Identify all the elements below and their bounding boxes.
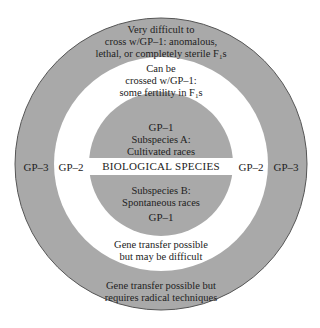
gp1-bottom-label: GP–1 bbox=[111, 211, 211, 223]
gp2-left-label: GP–2 bbox=[53, 161, 89, 173]
gp3-right-label: GP–3 bbox=[268, 161, 304, 173]
gp1-top-label: GP–1 bbox=[111, 121, 211, 133]
gp1-bottom-text: Subspecies B: Spontaneous races bbox=[101, 185, 221, 209]
gp2-right-label: GP–2 bbox=[233, 161, 269, 173]
biological-species-band: BIOLOGICAL SPECIES bbox=[89, 158, 233, 175]
gp2-top-text: Can be crossed w/GP–1: some fertility in… bbox=[90, 63, 232, 99]
gp3-top-text: Very difficult to cross w/GP–1: anomalou… bbox=[70, 24, 252, 60]
gp3-bottom-text: Gene transfer possible but requires radi… bbox=[80, 280, 242, 304]
gp2-bottom-text: Gene transfer possible but may be diffic… bbox=[90, 239, 232, 263]
gp1-top-text: Subspecies A: Cultivated races bbox=[101, 134, 221, 158]
gp3-left-label: GP–3 bbox=[18, 161, 54, 173]
